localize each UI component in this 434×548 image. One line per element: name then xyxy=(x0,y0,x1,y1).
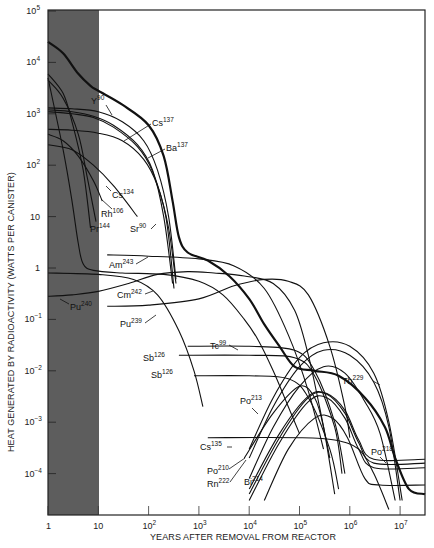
x-axis-title: YEARS AFTER REMOVAL FROM REACTOR xyxy=(150,532,336,542)
x-tick-label: 10 xyxy=(93,521,103,531)
x-tick-label: 1 xyxy=(46,521,51,531)
decay-heat-chart: 110102103104105106107 10510410310210110−… xyxy=(0,0,434,548)
y-tick-label: 1 xyxy=(35,263,40,273)
y-tick-label: 10 xyxy=(30,212,40,222)
y-axis-title: HEAT GENERATED BY RADIOACTIVITY (WATTS P… xyxy=(6,172,16,452)
